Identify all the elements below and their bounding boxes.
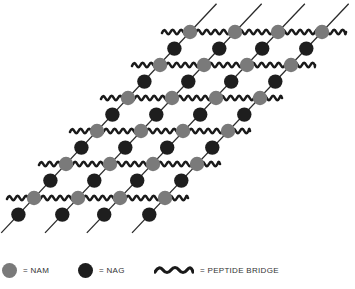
nam-unit: [271, 25, 285, 39]
nag-unit: [160, 140, 174, 154]
nag-unit: [118, 140, 132, 154]
nag-unit: [97, 207, 111, 221]
nam-unit: [190, 157, 204, 171]
nam-unit: [158, 191, 172, 205]
nag-unit: [55, 207, 69, 221]
nag-unit: [142, 207, 156, 221]
legend-item-nam: = NAM: [2, 258, 49, 282]
legend: = NAM = NAG = PEPTIDE BRIDGE: [0, 258, 355, 282]
nag-unit: [11, 207, 25, 221]
legend-label-nag: = NAG: [99, 266, 125, 275]
peptidoglycan-lattice: [0, 0, 355, 250]
nag-unit: [167, 41, 181, 55]
nam-unit: [27, 191, 41, 205]
nam-circle-icon: [2, 263, 17, 278]
nam-unit: [146, 157, 160, 171]
nag-unit: [43, 173, 57, 187]
legend-item-nag: = NAG: [78, 258, 125, 282]
nam-unit: [90, 124, 104, 138]
legend-item-peptide-bridge: = PEPTIDE BRIDGE: [154, 258, 279, 282]
nam-unit: [176, 124, 190, 138]
nag-unit: [237, 107, 251, 121]
nam-unit: [71, 191, 85, 205]
nam-unit: [183, 25, 197, 39]
nam-unit: [209, 91, 223, 105]
nag-unit: [74, 140, 88, 154]
nag-unit: [130, 173, 144, 187]
legend-label-peptide-bridge: = PEPTIDE BRIDGE: [200, 266, 279, 275]
nam-unit: [134, 124, 148, 138]
nam-unit: [165, 91, 179, 105]
legend-label-nam: = NAM: [23, 266, 49, 275]
nag-circle-icon: [78, 263, 93, 278]
nag-unit: [174, 173, 188, 187]
nag-unit: [268, 74, 282, 88]
nam-unit: [315, 25, 329, 39]
nam-unit: [103, 157, 117, 171]
nam-unit: [253, 91, 267, 105]
nam-unit: [153, 58, 167, 72]
nam-unit: [240, 58, 254, 72]
nam-unit: [284, 58, 298, 72]
nag-unit: [137, 74, 151, 88]
nam-unit: [197, 58, 211, 72]
nam-unit: [221, 124, 235, 138]
nag-unit: [224, 74, 238, 88]
nag-unit: [149, 107, 163, 121]
wavy-line-icon: [154, 264, 194, 276]
nam-unit: [228, 25, 242, 39]
nag-unit: [193, 107, 207, 121]
nag-unit: [105, 107, 119, 121]
nag-unit: [299, 41, 313, 55]
nag-unit: [87, 173, 101, 187]
nag-unit: [181, 74, 195, 88]
nag-unit: [212, 41, 226, 55]
nam-unit: [113, 191, 127, 205]
nag-unit: [205, 140, 219, 154]
nag-unit: [255, 41, 269, 55]
nam-unit: [121, 91, 135, 105]
nam-unit: [59, 157, 73, 171]
